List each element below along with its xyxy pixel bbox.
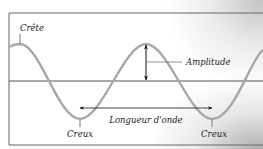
wave-diagram-svg: Crête Amplitude Longueur d'onde Creux Cr… xyxy=(0,0,263,149)
trough-label-left: Creux xyxy=(67,129,93,139)
wave-diagram: Crête Amplitude Longueur d'onde Creux Cr… xyxy=(0,0,263,149)
trough-label-right: Creux xyxy=(201,129,227,139)
wavelength-label: Longueur d'onde xyxy=(108,115,182,125)
crest-label: Crête xyxy=(20,23,44,33)
amplitude-label: Amplitude xyxy=(185,57,230,67)
